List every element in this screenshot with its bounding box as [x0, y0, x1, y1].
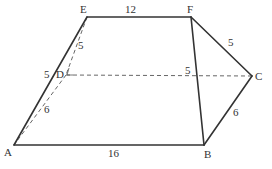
dashed-edge-dc — [66, 75, 252, 76]
vertex-label-a: A — [4, 146, 12, 158]
solid-edge-fb — [191, 17, 204, 145]
vertex-label-f: F — [187, 3, 193, 15]
geometry-diagram: ABCDEF 1216556556 — [0, 0, 272, 169]
vertex-label-d: D — [56, 68, 64, 80]
dashed-edge-da — [14, 75, 66, 145]
vertex-label-b: B — [204, 148, 211, 160]
visible-edges — [14, 17, 252, 145]
dashed-edge-ed — [66, 17, 87, 75]
solid-edge-cb — [204, 76, 252, 145]
edge-label-da: 6 — [44, 103, 50, 115]
edge-label-cb: 6 — [233, 106, 239, 118]
right-angle-marker-at-d — [67, 68, 73, 75]
edge-label-ae: 5 — [44, 68, 50, 80]
edge-label-ed: 5 — [78, 39, 84, 51]
solid-edge-ae — [14, 17, 87, 145]
vertex-label-c: C — [255, 70, 262, 82]
edge-label-fc: 5 — [228, 36, 234, 48]
edge-label-ab: 16 — [108, 147, 120, 159]
solid-edge-fc — [191, 17, 252, 76]
vertex-labels: ABCDEF — [4, 3, 262, 160]
edge-label-fb: 5 — [185, 64, 191, 76]
vertex-label-e: E — [80, 3, 87, 15]
edge-label-ef: 12 — [125, 3, 136, 15]
